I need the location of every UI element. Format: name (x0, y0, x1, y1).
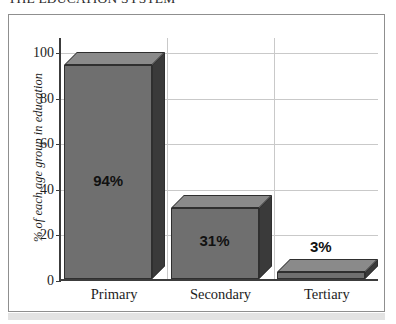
bar-side-face (259, 195, 272, 279)
y-tick-mark (56, 235, 61, 236)
y-tick-mark (56, 281, 61, 282)
bar-top-face (64, 52, 165, 65)
chart-figure: THE EDUCATION SYSTEM % of each age group… (0, 0, 396, 324)
bar-top-face (277, 259, 378, 272)
y-tick-mark (56, 53, 61, 54)
page-edge-band (8, 313, 385, 320)
y-tick-label: 60 (40, 136, 54, 152)
y-tick-label: 40 (40, 182, 54, 198)
bar-value-label: 94% (64, 172, 152, 189)
bar-secondary[interactable]: 31% (171, 195, 259, 279)
bar-value-label: 3% (277, 238, 365, 255)
category-separator (167, 38, 168, 279)
y-tick-label: 80 (40, 91, 54, 107)
bar-tertiary[interactable]: 3% (277, 259, 365, 279)
x-tick-label: Secondary (167, 286, 273, 303)
y-tick-mark (56, 190, 61, 191)
y-tick-label: 20 (40, 227, 54, 243)
x-tick-label: Tertiary (274, 286, 380, 303)
bar-value-label: 31% (171, 232, 259, 249)
chart-title: THE EDUCATION SYSTEM (8, 0, 388, 7)
plot-area: 02040608010094%Primary31%Secondary3%Tert… (59, 38, 378, 281)
y-tick-mark (56, 144, 61, 145)
y-tick-mark (56, 99, 61, 100)
bar-primary[interactable]: 94% (64, 52, 152, 279)
y-tick-label: 0 (47, 273, 54, 289)
x-tick-label: Primary (61, 286, 167, 303)
category-separator (274, 38, 275, 279)
bar-front-face (277, 272, 365, 279)
y-tick-label: 100 (33, 45, 54, 61)
plot-inner: 02040608010094%Primary31%Secondary3%Tert… (61, 38, 378, 279)
bar-side-face (152, 52, 165, 279)
bar-top-face (171, 195, 272, 208)
